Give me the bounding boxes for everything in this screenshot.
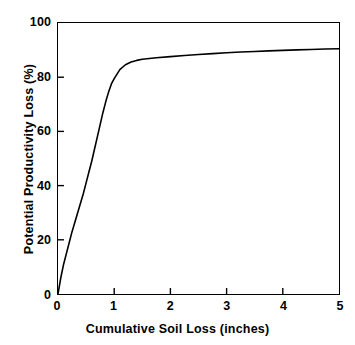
data-series-line: [58, 49, 339, 294]
x-tick-label: 4: [280, 300, 287, 313]
tick-marks: [58, 77, 283, 294]
x-tick-label: 1: [110, 300, 117, 313]
y-tick-label: 40: [37, 180, 51, 193]
plot-area: [57, 22, 340, 295]
chart-figure: 100806040200 012345 Cumulative Soil Loss…: [0, 0, 355, 345]
x-axis-title: Cumulative Soil Loss (inches): [0, 322, 355, 336]
y-axis-title: Potential Productivity Loss (%): [22, 19, 36, 299]
x-axis-tick-labels: 012345: [0, 300, 355, 318]
y-tick-label: 80: [37, 71, 51, 84]
y-tick-label: 20: [37, 234, 51, 247]
plot-canvas: [58, 23, 339, 294]
x-tick-label: 3: [223, 300, 230, 313]
x-tick-label: 5: [337, 300, 344, 313]
x-tick-label: 0: [54, 300, 61, 313]
x-tick-label: 2: [167, 300, 174, 313]
y-tick-label: 60: [37, 125, 51, 138]
